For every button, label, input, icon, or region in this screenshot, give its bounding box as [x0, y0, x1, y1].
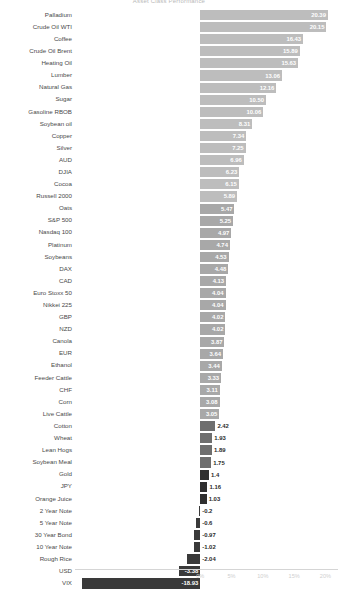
bar[interactable] — [200, 433, 212, 443]
bar-category-label: Cocoa — [0, 181, 75, 188]
bar-track: 15.63 — [75, 57, 338, 69]
x-axis: 0%5%10%15%20% — [0, 569, 338, 587]
bar-track: 12.16 — [75, 82, 338, 94]
x-axis-tick: 20% — [320, 573, 331, 579]
bar-value-label: -0.6 — [202, 520, 212, 526]
bar[interactable] — [200, 10, 328, 20]
bar-track: 6.96 — [75, 154, 338, 166]
bar-value-label: 1.75 — [213, 460, 224, 466]
x-axis-tick: 0% — [196, 573, 204, 579]
bar-value-label: 3.44 — [208, 363, 219, 369]
bar-category-label: Corn — [0, 399, 75, 406]
bar-track: 10.50 — [75, 94, 338, 106]
bar[interactable] — [200, 421, 215, 431]
bar-row: Copper7.34 — [0, 130, 338, 142]
bar-value-label: -2.04 — [202, 556, 215, 562]
bar[interactable] — [187, 554, 200, 564]
bar[interactable] — [199, 506, 200, 516]
bar-row: CAD4.13 — [0, 275, 338, 287]
bar-row: Soybean Meal1.75 — [0, 456, 338, 468]
bar-category-label: Crude Oil WTI — [0, 24, 75, 31]
bar-row: Orange Juice1.03 — [0, 493, 338, 505]
bar-category-label: GBP — [0, 314, 75, 321]
bar-value-label: 10.50 — [249, 97, 264, 103]
bar-category-label: Soybean Meal — [0, 459, 75, 466]
bar-value-label: 4.02 — [212, 314, 223, 320]
bar-row: Ethanol3.44 — [0, 360, 338, 372]
bar-track: 4.04 — [75, 299, 338, 311]
bar-row: Silver7.25 — [0, 142, 338, 154]
bar-track: 4.48 — [75, 263, 338, 275]
bar-value-label: 20.39 — [311, 12, 326, 18]
bar-category-label: S&P 500 — [0, 217, 75, 224]
bar-value-label: 5.25 — [220, 218, 231, 224]
bar[interactable] — [194, 542, 200, 552]
bar-value-label: 1.16 — [210, 484, 221, 490]
bar[interactable] — [196, 518, 200, 528]
bar-value-label: 5.47 — [221, 206, 232, 212]
bar-category-label: Gasoline RBOB — [0, 109, 75, 116]
bar-row: Crude Oil Brent15.89 — [0, 45, 338, 57]
bar-value-label: 6.15 — [225, 181, 236, 187]
bar-value-label: -0.2 — [202, 508, 212, 514]
bar-category-label: Orange Juice — [0, 496, 75, 503]
bar-row: Platinum4.74 — [0, 239, 338, 251]
bar[interactable] — [200, 482, 207, 492]
bar-track: 6.23 — [75, 166, 338, 178]
bar-track: 4.97 — [75, 227, 338, 239]
bar-row: Soybean oil8.31 — [0, 118, 338, 130]
bar-track: -2.04 — [75, 553, 338, 565]
bar-row: Euro Stoxx 504.04 — [0, 287, 338, 299]
bar-row: AUD6.96 — [0, 154, 338, 166]
bar-row: 30 Year Bond-0.97 — [0, 529, 338, 541]
bar-value-label: 5.89 — [224, 193, 235, 199]
bar-row: Wheat1.93 — [0, 432, 338, 444]
bar-track: 3.05 — [75, 408, 338, 420]
bar-category-label: Palladium — [0, 12, 75, 19]
bar-category-label: Feeder Cattle — [0, 375, 75, 382]
bar[interactable] — [194, 530, 200, 540]
bar[interactable] — [200, 445, 212, 455]
bar-track: 4.02 — [75, 311, 338, 323]
bar-row: Coffee16.43 — [0, 33, 338, 45]
bar-value-label: 4.13 — [213, 278, 224, 284]
bar-row: Cocoa6.15 — [0, 178, 338, 190]
bar-chart: Asset Class Performance Palladium20.39Cr… — [0, 0, 338, 609]
bar-value-label: -1.02 — [202, 544, 215, 550]
x-axis-tick: 5% — [228, 573, 236, 579]
bar-row: Gasoline RBOB10.06 — [0, 106, 338, 118]
bar[interactable] — [200, 470, 209, 480]
bar-row: Lean Hogs1.89 — [0, 444, 338, 456]
bar[interactable] — [200, 494, 206, 504]
bar-track: -0.97 — [75, 529, 338, 541]
bar-category-label: 10 Year Note — [0, 544, 75, 551]
bar-category-label: AUD — [0, 157, 75, 164]
bar-track: 15.89 — [75, 45, 338, 57]
bar-row: Soybeans4.53 — [0, 251, 338, 263]
bar-track: 20.39 — [75, 9, 338, 21]
bar-value-label: 16.43 — [286, 36, 301, 42]
bar-row: Russell 20005.89 — [0, 190, 338, 202]
bar-value-label: 3.05 — [206, 411, 217, 417]
bar-row: Sugar10.50 — [0, 94, 338, 106]
bar-row: Live Cattle3.05 — [0, 408, 338, 420]
bar-value-label: 4.97 — [218, 230, 229, 236]
bar[interactable] — [200, 22, 326, 32]
x-axis-line — [75, 569, 338, 570]
bar-track: 3.11 — [75, 384, 338, 396]
bar-category-label: Russell 2000 — [0, 193, 75, 200]
bar-row: 10 Year Note-1.02 — [0, 541, 338, 553]
bar-track: 4.74 — [75, 239, 338, 251]
bar-value-label: 3.87 — [211, 339, 222, 345]
bar-category-label: DJIA — [0, 169, 75, 176]
bar-row: CHF3.11 — [0, 384, 338, 396]
bar-row: Canola3.87 — [0, 336, 338, 348]
bar-track: 4.04 — [75, 287, 338, 299]
bar-category-label: Platinum — [0, 242, 75, 249]
bar-category-label: DAX — [0, 266, 75, 273]
bar-track: -1.02 — [75, 541, 338, 553]
bar-value-label: 4.48 — [215, 266, 226, 272]
bar-category-label: Lean Hogs — [0, 447, 75, 454]
bar[interactable] — [200, 457, 211, 467]
bar-value-label: 1.93 — [214, 435, 225, 441]
